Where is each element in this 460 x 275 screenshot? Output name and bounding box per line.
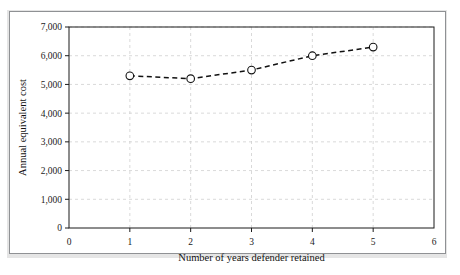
line-chart: 01,0002,0003,0004,0005,0006,0007,0000123… [0, 0, 460, 275]
x-axis-tick-label: 1 [127, 237, 132, 247]
y-axis-tick-label: 0 [57, 223, 62, 233]
y-axis-tick-label: 5,000 [41, 80, 63, 90]
y-axis-tick-label: 2,000 [41, 166, 63, 176]
y-axis-tick-label: 7,000 [41, 22, 63, 32]
data-point-marker [248, 66, 256, 74]
x-axis-tick-label: 6 [432, 237, 437, 247]
y-axis-tick-label: 6,000 [41, 51, 63, 61]
x-axis-tick-label: 2 [188, 237, 193, 247]
y-axis-title: Annual equivalent cost [17, 79, 28, 176]
plot-area: 01,0002,0003,0004,0005,0006,0007,0000123… [0, 0, 460, 275]
data-point-marker [187, 75, 195, 83]
data-point-marker [309, 52, 317, 60]
x-axis-tick-label: 0 [67, 237, 72, 247]
data-point-marker [369, 43, 377, 51]
x-axis-tick-label: 3 [249, 237, 254, 247]
figure-container: 01,0002,0003,0004,0005,0006,0007,0000123… [0, 0, 460, 275]
y-axis-tick-label: 4,000 [41, 109, 63, 119]
data-point-marker [126, 72, 134, 80]
x-axis-tick-label: 5 [371, 237, 376, 247]
x-axis-title: Number of years defender retained [178, 252, 325, 263]
y-axis-tick-label: 3,000 [41, 137, 63, 147]
y-axis-tick-label: 1,000 [41, 195, 63, 205]
x-axis-tick-label: 4 [310, 237, 315, 247]
